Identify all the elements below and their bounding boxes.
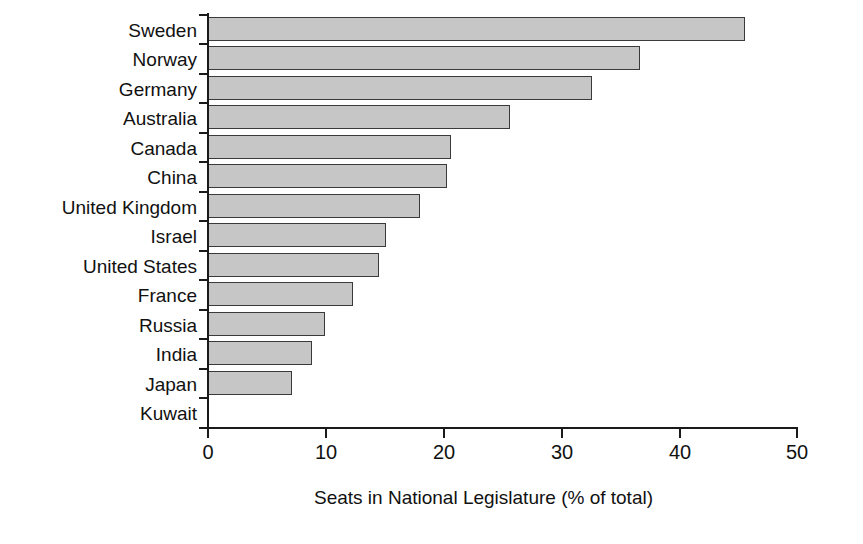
y-axis-label-kuwait: Kuwait bbox=[140, 404, 197, 423]
bar-israel bbox=[208, 223, 386, 247]
bar-norway bbox=[208, 46, 640, 70]
x-axis-line bbox=[207, 427, 798, 429]
y-axis-label-india: India bbox=[156, 345, 197, 364]
y-axis-label-canada: Canada bbox=[130, 139, 197, 158]
x-tick-mark bbox=[679, 429, 681, 438]
bar-sweden bbox=[208, 17, 745, 41]
y-axis-label-japan: Japan bbox=[145, 375, 197, 394]
x-axis-title: Seats in National Legislature (% of tota… bbox=[0, 487, 863, 509]
y-axis-label-russia: Russia bbox=[139, 316, 197, 335]
bar-russia bbox=[208, 312, 325, 336]
bar-china bbox=[208, 164, 447, 188]
y-axis-label-united-states: United States bbox=[83, 257, 197, 276]
y-axis-label-sweden: Sweden bbox=[128, 21, 197, 40]
x-tick-label-30: 30 bbox=[551, 441, 573, 463]
y-axis-line bbox=[207, 13, 209, 429]
bar-india bbox=[208, 341, 312, 365]
bar-france bbox=[208, 282, 353, 306]
x-tick-mark bbox=[561, 429, 563, 438]
bar-united-states bbox=[208, 253, 379, 277]
y-axis-label-france: France bbox=[138, 286, 197, 305]
x-tick-mark bbox=[796, 429, 798, 438]
x-tick-label-10: 10 bbox=[315, 441, 337, 463]
x-axis-title-text: Seats in National Legislature (% of tota… bbox=[314, 487, 653, 509]
y-axis-label-germany: Germany bbox=[119, 80, 197, 99]
bar-united-kingdom bbox=[208, 194, 420, 218]
y-axis-label-norway: Norway bbox=[133, 50, 197, 69]
y-axis-label-united-kingdom: United Kingdom bbox=[62, 198, 197, 217]
x-tick-label-20: 20 bbox=[433, 441, 455, 463]
x-tick-label-50: 50 bbox=[786, 441, 808, 463]
plot-area bbox=[208, 14, 797, 428]
bar-chart: Sweden Norway Germany Australia Canada C… bbox=[0, 0, 863, 544]
x-tick-label-0: 0 bbox=[202, 441, 213, 463]
x-tick-label-40: 40 bbox=[669, 441, 691, 463]
x-tick-mark bbox=[325, 429, 327, 438]
y-axis-label-china: China bbox=[147, 168, 197, 187]
x-tick-mark bbox=[443, 429, 445, 438]
x-tick-mark bbox=[207, 429, 209, 438]
y-axis-label-australia: Australia bbox=[123, 109, 197, 128]
bar-canada bbox=[208, 135, 451, 159]
y-axis-label-israel: Israel bbox=[151, 227, 197, 246]
bar-japan bbox=[208, 371, 292, 395]
bar-australia bbox=[208, 105, 510, 129]
bar-germany bbox=[208, 76, 592, 100]
